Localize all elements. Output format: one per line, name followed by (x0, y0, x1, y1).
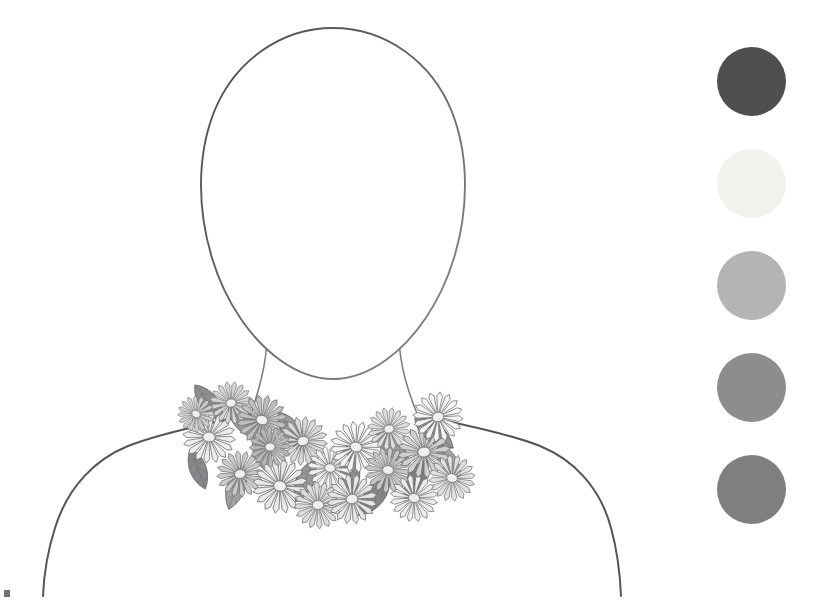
swatch-slot-4 (714, 336, 788, 438)
scan-artifact-mark (4, 590, 10, 597)
swatch-slot-5 (714, 438, 788, 540)
swatch-slot-1 (714, 30, 788, 132)
swatch-slot-3 (714, 234, 788, 336)
floral-bib-necklace (0, 0, 827, 601)
palette-swatch-charcoal[interactable] (717, 47, 786, 116)
necklace-flower-layer (172, 377, 481, 530)
palette-swatch-slate-grey[interactable] (717, 455, 786, 524)
swatch-slot-2 (714, 132, 788, 234)
design-sheet-canvas: Floral Bib Necklace Design Sheet (0, 0, 827, 601)
palette-swatch-off-white[interactable] (717, 149, 786, 218)
palette-swatch-mid-grey[interactable] (717, 353, 786, 422)
palette-swatch-light-grey[interactable] (717, 251, 786, 320)
colourway-palette (714, 30, 788, 540)
